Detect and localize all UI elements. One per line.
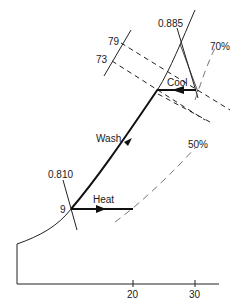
label-enthalpy-79: 79 [108, 36, 120, 47]
label-rh-70: 70% [210, 41, 230, 52]
wash-arrow-icon [124, 138, 132, 146]
label-sv-0810: 0.810 [48, 169, 73, 180]
wash-process-line [71, 89, 158, 209]
heat-arrow-icon [96, 205, 106, 213]
psychrometric-chart: 20 30 0.885 79 73 70% Cool Wash 50% 0.81… [0, 0, 245, 307]
label-cool: Cool [167, 77, 188, 88]
x-tick-label-30: 30 [189, 289, 201, 300]
rh-curve-70 [195, 48, 215, 100]
rh-curve-50 [115, 148, 195, 222]
label-heat: Heat [93, 194, 114, 205]
label-dew-point-9: 9 [60, 204, 66, 215]
label-rh-50: 50% [188, 139, 208, 150]
label-sv-0885: 0.885 [158, 18, 183, 29]
label-enthalpy-73: 73 [96, 54, 108, 65]
enthalpy-line-lower [158, 94, 210, 122]
label-wash: Wash [96, 133, 121, 144]
x-tick-label-20: 20 [127, 289, 139, 300]
